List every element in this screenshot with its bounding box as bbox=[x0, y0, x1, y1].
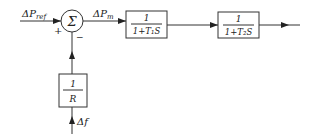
droop-denominator: R bbox=[69, 94, 77, 104]
block-2: 1 1+T₂S bbox=[218, 12, 259, 38]
output-arrow-icon bbox=[281, 22, 289, 28]
block-1-denominator: 1+T₁S bbox=[133, 26, 161, 36]
block-2-numerator: 1 bbox=[236, 14, 242, 24]
block-1: 1 1+T₁S bbox=[126, 11, 167, 38]
sigma-symbol: Σ bbox=[66, 14, 77, 29]
reference-arrow-icon bbox=[53, 18, 61, 24]
reference-label: ΔPref bbox=[21, 8, 47, 21]
droop-block: 1 R bbox=[59, 74, 87, 107]
block-2-denominator: 1+T₂S bbox=[225, 27, 253, 37]
block-diagram: ΔPref + Σ − ΔPm 1 1+T₁S 1 1+T₂S 1 R Δf bbox=[0, 0, 320, 140]
block-1-numerator: 1 bbox=[144, 13, 150, 23]
frequency-label: Δf bbox=[76, 116, 90, 127]
droop-numerator: 1 bbox=[70, 79, 76, 89]
mechanical-power-label: ΔPm bbox=[92, 8, 114, 21]
feedback-arrow-icon bbox=[69, 51, 75, 59]
minus-sign: − bbox=[76, 32, 84, 42]
mechanical-power-arrow-icon bbox=[118, 18, 126, 24]
frequency-arrow-icon bbox=[69, 116, 75, 124]
connector-arrow-icon bbox=[210, 22, 218, 28]
plus-sign: + bbox=[54, 25, 62, 36]
